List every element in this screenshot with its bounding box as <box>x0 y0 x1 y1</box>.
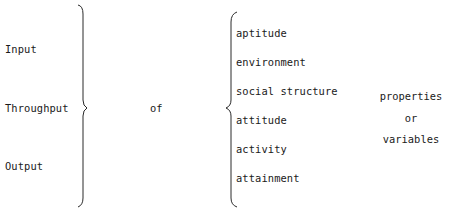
right-term-or: or <box>372 108 449 130</box>
middle-term-aptitude: aptitude <box>236 27 287 39</box>
diagram: Input Throughput Output of aptitude envi… <box>0 0 449 213</box>
right-term-variables: variables <box>372 129 449 151</box>
right-term-properties: properties <box>372 86 449 108</box>
middle-term-activity: activity <box>236 143 287 155</box>
middle-term-environment: environment <box>236 56 306 68</box>
middle-term-social-structure: social structure <box>236 85 338 97</box>
middle-term-attitude: attitude <box>236 114 287 126</box>
middle-term-attainment: attainment <box>236 172 300 184</box>
right-terms: properties or variables <box>372 86 449 151</box>
